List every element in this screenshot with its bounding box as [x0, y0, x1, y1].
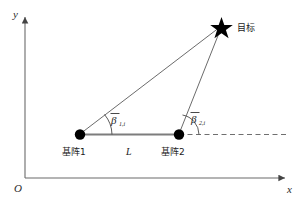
array1-label: 基阵1 — [62, 146, 86, 157]
array2-label: 基阵2 — [161, 146, 185, 157]
diagram-svg: y O x 基阵1 基阵2 目标 L β 1,i β 2,i — [0, 0, 304, 201]
filled-circle-marker-array2 — [174, 129, 184, 139]
figure-canvas: y O x 基阵1 基阵2 目标 L β 1,i β 2,i — [0, 0, 304, 201]
x-axis-label: x — [286, 183, 292, 195]
angle1-subscript: 1,i — [119, 121, 126, 127]
filled-circle-marker-array1 — [75, 129, 85, 139]
angle1-symbol: β — [110, 114, 117, 126]
star-marker-target — [210, 17, 233, 38]
bearing-line-array1 — [80, 27, 220, 134]
angle2-subscript: 2,i — [199, 120, 206, 126]
angle2-label: β 2,i — [190, 113, 206, 127]
target-label: 目标 — [237, 22, 255, 33]
angle2-symbol: β — [190, 113, 197, 125]
baseline-length-label: L — [125, 146, 132, 157]
angle1-label: β 1,i — [110, 114, 126, 128]
y-axis-label: y — [12, 8, 18, 20]
origin-label: O — [14, 182, 22, 194]
bearing-line-array2 — [179, 28, 221, 134]
